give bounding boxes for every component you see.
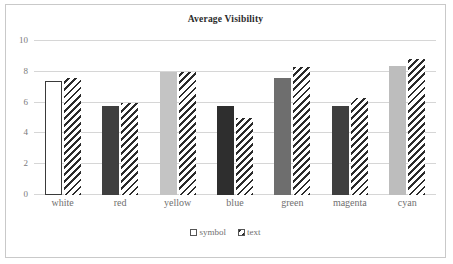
x-axis-label-cyan: cyan: [379, 197, 436, 208]
bar-red-text: [121, 103, 138, 195]
legend-label: text: [247, 227, 261, 237]
bar-group-magenta: [321, 41, 378, 195]
y-axis-tick-label: 2: [24, 158, 29, 168]
plot-area: 0246810: [34, 41, 436, 195]
x-axis-label-green: green: [264, 197, 321, 208]
bar-group-green: [264, 41, 321, 195]
y-axis-tick-label: 6: [24, 97, 29, 107]
x-axis-label-white: white: [34, 197, 91, 208]
bar-cyan-text: [408, 59, 425, 195]
bar-group-red: [91, 41, 148, 195]
legend-label: symbol: [199, 227, 226, 237]
y-axis-tick-label: 10: [19, 35, 28, 45]
bar-group-yellow: [149, 41, 206, 195]
bar-cyan-symbol: [389, 66, 406, 195]
chart-legend: symboltext: [6, 227, 445, 237]
bar-group-cyan: [379, 41, 436, 195]
bar-green-symbol: [274, 78, 291, 195]
open-square-icon: [190, 229, 197, 236]
bar-white-symbol: [45, 81, 62, 195]
bar-blue-text: [236, 118, 253, 195]
y-axis-tick-label: 8: [24, 66, 29, 76]
bar-group-white: [34, 41, 91, 195]
bar-yellow-text: [179, 72, 196, 195]
y-axis-tick-label: 0: [24, 189, 29, 199]
legend-item-symbol[interactable]: symbol: [190, 227, 226, 237]
chart-title: Average Visibility: [6, 14, 445, 24]
hatched-square-icon: [238, 229, 245, 236]
y-axis-tick-label: 4: [24, 127, 29, 137]
bar-group-blue: [206, 41, 263, 195]
bar-magenta-symbol: [332, 106, 349, 195]
x-axis-labels: whiteredyellowbluegreenmagentacyan: [34, 197, 436, 208]
legend-item-text[interactable]: text: [238, 227, 261, 237]
chart-frame: Average Visibility 0246810 whiteredyello…: [5, 4, 446, 258]
bar-red-symbol: [102, 106, 119, 195]
x-axis-label-yellow: yellow: [149, 197, 206, 208]
bar-blue-symbol: [217, 106, 234, 195]
x-axis-label-magenta: magenta: [321, 197, 378, 208]
x-axis-label-red: red: [91, 197, 148, 208]
bar-yellow-symbol: [160, 72, 177, 195]
bar-green-text: [293, 67, 310, 195]
bar-magenta-text: [351, 98, 368, 195]
bar-white-text: [64, 78, 81, 195]
x-axis-label-blue: blue: [206, 197, 263, 208]
bar-groups: [34, 41, 436, 195]
